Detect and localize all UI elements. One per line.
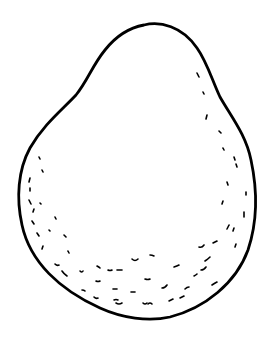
stipple-mark: [236, 164, 237, 167]
stipple-mark: [33, 209, 34, 212]
stipple-mark: [39, 157, 40, 159]
stipple-mark: [235, 244, 236, 247]
stipple-mark: [29, 178, 30, 182]
stipple-mark: [145, 279, 150, 280]
background: [0, 0, 273, 342]
stipple-mark: [42, 170, 43, 172]
stipple-mark: [80, 271, 83, 272]
stipple-mark: [227, 182, 228, 185]
stipple-mark: [49, 230, 50, 231]
stipple-mark: [68, 251, 69, 253]
stipple-mark: [96, 281, 100, 282]
stipple-mark: [222, 201, 223, 204]
seed-drawing: [0, 0, 273, 342]
stipple-mark: [42, 246, 43, 249]
illustration-canvas: [0, 0, 273, 342]
stipple-mark: [223, 148, 224, 150]
stipple-mark: [206, 115, 207, 119]
stipple-mark: [40, 203, 41, 204]
stipple-mark: [234, 157, 235, 160]
stipple-mark: [114, 300, 118, 301]
stipple-mark: [233, 228, 234, 231]
stipple-mark: [55, 217, 56, 219]
stipple-mark: [108, 270, 112, 271]
stipple-mark: [203, 92, 204, 94]
